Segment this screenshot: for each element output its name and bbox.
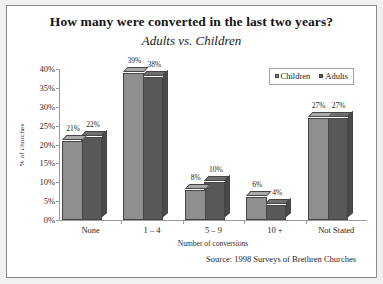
x-tick-mark xyxy=(121,220,122,224)
legend-label-children: Children xyxy=(281,71,311,81)
x-tick-label: None xyxy=(81,225,99,235)
legend-label-adults: Adults xyxy=(325,71,348,81)
page-title: How many were converted in the last two … xyxy=(7,14,376,30)
bar-value-label: 39% xyxy=(128,56,142,65)
bar-children[interactable] xyxy=(308,118,329,220)
x-tick-label: 5 – 9 xyxy=(205,225,222,235)
plot-inner: 0%5%10%15%20%25%30%35%40%21%22%None39%38… xyxy=(60,69,367,220)
bar-group: 8%10%5 – 9 xyxy=(183,69,244,220)
bar-children[interactable] xyxy=(123,73,144,220)
bar-face xyxy=(62,141,83,220)
bar-face xyxy=(308,118,329,220)
bar-value-label: 38% xyxy=(148,60,162,69)
bar-face xyxy=(265,205,286,220)
bar-top-face xyxy=(246,191,272,196)
bar-face xyxy=(327,118,348,220)
bar-group: 6%4%10 + xyxy=(244,69,305,220)
bar-adults[interactable] xyxy=(142,77,163,220)
legend-item-children[interactable]: Children xyxy=(275,71,311,81)
bar-adults[interactable] xyxy=(327,118,348,220)
chart-frame: How many were converted in the last two … xyxy=(6,5,377,278)
bar-value-label: 22% xyxy=(86,120,100,129)
legend-swatch-adults-icon xyxy=(319,74,323,78)
bar-value-label: 27% xyxy=(332,101,346,110)
bar-value-label: 4% xyxy=(272,188,282,197)
source-note: Source: 1998 Surveys of Brethren Churche… xyxy=(206,254,356,264)
x-tick-label: 1 – 4 xyxy=(144,225,161,235)
bar-children[interactable] xyxy=(62,141,83,220)
chart-legend: Children Adults xyxy=(269,68,354,85)
bar-group: 21%22%None xyxy=(60,69,121,220)
bar-value-label: 27% xyxy=(312,101,326,110)
bar-side-face xyxy=(286,198,291,217)
x-tick-mark xyxy=(183,220,184,224)
bar-face xyxy=(142,77,163,220)
bar-top-face xyxy=(308,112,334,117)
legend-swatch-children-icon xyxy=(275,74,279,78)
bar-top-face xyxy=(62,135,88,140)
bar-face xyxy=(185,190,206,220)
chart-subtitle: Adults vs. Children xyxy=(7,33,376,49)
bar-value-label: 6% xyxy=(252,180,262,189)
x-axis-label: Number of conversions xyxy=(59,239,367,248)
y-axis-label: % of churches xyxy=(16,69,28,221)
bar-side-face xyxy=(225,175,230,217)
legend-item-adults[interactable]: Adults xyxy=(319,71,348,81)
bar-top-face xyxy=(185,184,211,189)
chart-figure: How many were converted in the last two … xyxy=(0,0,383,284)
bar-value-label: 21% xyxy=(66,124,80,133)
bar-value-label: 8% xyxy=(191,173,201,182)
bar-side-face xyxy=(163,70,168,217)
x-tick-label: 10 + xyxy=(267,225,282,235)
bar-adults[interactable] xyxy=(265,205,286,220)
bar-side-face xyxy=(348,111,353,217)
x-tick-mark xyxy=(244,220,245,224)
bar-group: 39%38%1 – 4 xyxy=(121,69,182,220)
bar-face xyxy=(123,73,144,220)
bar-side-face xyxy=(102,130,107,217)
bar-children[interactable] xyxy=(185,190,206,220)
plot-area: 0%5%10%15%20%25%30%35%40%21%22%None39%38… xyxy=(59,69,367,221)
bar-group: 27%27%Not Stated xyxy=(306,69,367,220)
bar-children[interactable] xyxy=(246,197,267,220)
bar-value-label: 10% xyxy=(209,165,223,174)
bar-face xyxy=(246,197,267,220)
x-tick-label: Not Stated xyxy=(318,225,354,235)
bar-adults[interactable] xyxy=(81,137,102,220)
x-tick-mark xyxy=(306,220,307,224)
y-tick-mark xyxy=(56,220,60,221)
bar-face xyxy=(81,137,102,220)
